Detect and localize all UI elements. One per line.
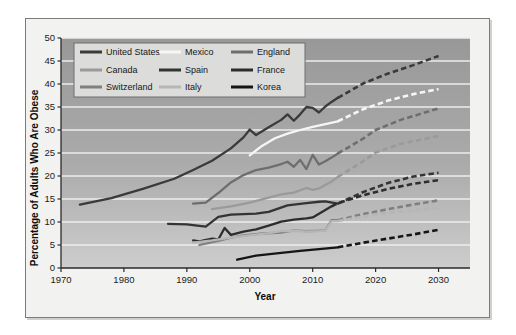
figure-root: 05101520253035404550 1970198019902000201…	[0, 0, 516, 335]
y-tick-label: 40	[44, 78, 55, 89]
legend-label: France	[257, 65, 285, 75]
obesity-trend-line-chart: 05101520253035404550 1970198019902000201…	[25, 18, 490, 318]
legend-label: Mexico	[185, 47, 214, 57]
y-tick-label: 0	[50, 262, 55, 273]
y-tick-label: 5	[50, 239, 55, 250]
y-tick-label: 15	[44, 193, 55, 204]
x-tick-label: 1990	[176, 274, 197, 285]
x-tick-label: 2000	[239, 274, 260, 285]
y-tick-label: 45	[44, 55, 55, 66]
x-tick-label: 2020	[365, 274, 386, 285]
legend-label: Korea	[257, 82, 281, 92]
y-tick-label: 25	[44, 147, 55, 158]
x-axis-title: Year	[254, 291, 275, 302]
y-axis-tick-labels: 05101520253035404550	[44, 32, 55, 273]
x-tick-label: 1980	[113, 274, 134, 285]
x-axis-tick-labels: 1970198019902000201020202030	[50, 274, 449, 285]
y-tick-label: 35	[44, 101, 55, 112]
x-tick-label: 2010	[302, 274, 323, 285]
legend-label: Italy	[185, 82, 202, 92]
y-axis-title-group: Percentage of Adults Who Are Obese	[29, 89, 40, 266]
legend-label: United States	[106, 47, 161, 57]
y-tick-label: 30	[44, 124, 55, 135]
x-tick-label: 2030	[428, 274, 449, 285]
x-tick-label: 1970	[50, 274, 71, 285]
chart-legend: United StatesMexicoEnglandCanadaSpainFra…	[74, 43, 305, 97]
legend-label: Spain	[185, 65, 208, 75]
y-tick-label: 20	[44, 170, 55, 181]
x-axis-title-group: Year	[254, 291, 275, 302]
legend-label: England	[257, 47, 290, 57]
y-tick-label: 50	[44, 32, 55, 43]
legend-label: Switzerland	[106, 82, 153, 92]
y-tick-label: 10	[44, 216, 55, 227]
legend-label: Canada	[106, 65, 138, 75]
y-axis-title: Percentage of Adults Who Are Obese	[29, 89, 40, 266]
